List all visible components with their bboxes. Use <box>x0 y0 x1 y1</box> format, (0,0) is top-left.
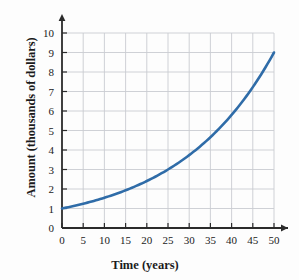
x-tick-label: 50 <box>269 234 281 246</box>
y-tick-label: 9 <box>49 47 55 59</box>
x-axis-title: Time (years) <box>0 258 290 273</box>
y-tick-labels: 012345678910 <box>43 27 55 234</box>
x-tick-label: 20 <box>141 234 153 246</box>
x-tick-label: 0 <box>59 234 65 246</box>
x-tick-label: 15 <box>120 234 132 246</box>
x-axis-arrowhead <box>281 225 288 232</box>
x-tick-label: 10 <box>99 234 111 246</box>
y-tick-label: 0 <box>49 222 55 234</box>
x-tick-label: 30 <box>184 234 196 246</box>
x-tick-label: 45 <box>247 234 259 246</box>
x-tick-label: 35 <box>205 234 217 246</box>
x-tick-labels: 05101520253035404550 <box>59 234 280 246</box>
y-tick-label: 7 <box>49 86 55 98</box>
y-tick-label: 4 <box>49 144 55 156</box>
y-tick-label: 2 <box>49 183 55 195</box>
x-tick-label: 5 <box>80 234 86 246</box>
y-tick-label: 6 <box>49 105 55 117</box>
y-tick-label: 10 <box>43 27 55 39</box>
y-tick-label: 5 <box>49 125 55 137</box>
y-tick-label: 8 <box>49 66 55 78</box>
chart-figure: 05101520253035404550 012345678910 Amount… <box>0 0 299 280</box>
grid-lines <box>62 33 274 228</box>
y-tick-label: 1 <box>49 203 55 215</box>
x-tick-label: 25 <box>163 234 175 246</box>
y-axis-arrowhead <box>59 14 66 21</box>
y-axis-title: Amount (thousands of dollars) <box>24 13 39 223</box>
y-tick-label: 3 <box>49 164 55 176</box>
chart-canvas: 05101520253035404550 012345678910 <box>0 0 299 280</box>
x-tick-label: 40 <box>226 234 238 246</box>
axes <box>59 14 288 231</box>
